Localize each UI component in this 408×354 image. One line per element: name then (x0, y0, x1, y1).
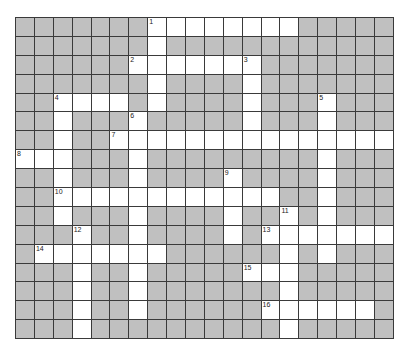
crossword-cell-open[interactable] (110, 94, 129, 113)
crossword-cell-open[interactable]: 3 (243, 56, 262, 75)
crossword-cell-open[interactable] (224, 131, 243, 150)
crossword-cell-open[interactable] (318, 188, 337, 207)
crossword-cell-open[interactable] (73, 264, 92, 283)
crossword-cell-open[interactable] (318, 226, 337, 245)
crossword-cell-open[interactable] (148, 94, 167, 113)
crossword-cell-open[interactable] (92, 94, 111, 113)
crossword-cell-open[interactable] (186, 131, 205, 150)
crossword-cell-open[interactable] (337, 131, 356, 150)
crossword-cell-open[interactable] (73, 245, 92, 264)
crossword-cell-open[interactable] (35, 150, 54, 169)
crossword-cell-open[interactable]: 13 (262, 226, 281, 245)
crossword-cell-open[interactable]: 9 (224, 169, 243, 188)
crossword-cell-open[interactable] (129, 282, 148, 301)
crossword-cell-open[interactable] (375, 226, 394, 245)
crossword-cell-open[interactable]: 8 (16, 150, 35, 169)
crossword-cell-open[interactable] (54, 169, 73, 188)
crossword-cell-open[interactable] (186, 56, 205, 75)
crossword-cell-open[interactable] (205, 188, 224, 207)
crossword-cell-open[interactable]: 5 (318, 94, 337, 113)
crossword-cell-open[interactable] (129, 188, 148, 207)
crossword-cell-open[interactable] (205, 18, 224, 37)
crossword-cell-open[interactable] (148, 131, 167, 150)
crossword-cell-open[interactable] (92, 245, 111, 264)
crossword-cell-open[interactable] (129, 207, 148, 226)
crossword-cell-open[interactable] (243, 18, 262, 37)
crossword-cell-open[interactable] (54, 150, 73, 169)
crossword-cell-open[interactable] (148, 245, 167, 264)
crossword-cell-open[interactable]: 15 (243, 264, 262, 283)
crossword-cell-open[interactable] (356, 226, 375, 245)
crossword-cell-open[interactable] (167, 18, 186, 37)
crossword-cell-open[interactable] (186, 188, 205, 207)
crossword-cell-open[interactable] (243, 112, 262, 131)
crossword-cell-open[interactable] (280, 282, 299, 301)
crossword-cell-open[interactable] (224, 226, 243, 245)
crossword-cell-open[interactable]: 2 (129, 56, 148, 75)
crossword-cell-open[interactable]: 1 (148, 18, 167, 37)
crossword-cell-open[interactable] (243, 188, 262, 207)
crossword-cell-open[interactable] (54, 112, 73, 131)
crossword-cell-open[interactable] (129, 264, 148, 283)
crossword-cell-open[interactable] (224, 56, 243, 75)
crossword-cell-open[interactable] (318, 245, 337, 264)
crossword-cell-open[interactable] (262, 264, 281, 283)
crossword-cell-open[interactable] (280, 18, 299, 37)
crossword-cell-open[interactable] (262, 18, 281, 37)
crossword-cell-open[interactable]: 7 (110, 131, 129, 150)
crossword-cell-open[interactable] (110, 188, 129, 207)
crossword-cell-open[interactable] (337, 226, 356, 245)
crossword-cell-open[interactable] (318, 150, 337, 169)
crossword-cell-open[interactable] (129, 169, 148, 188)
crossword-cell-open[interactable] (148, 56, 167, 75)
crossword-cell-open[interactable] (54, 245, 73, 264)
crossword-cell-open[interactable] (73, 282, 92, 301)
crossword-cell-open[interactable] (318, 131, 337, 150)
crossword-cell-open[interactable] (299, 131, 318, 150)
crossword-cell-open[interactable] (129, 226, 148, 245)
crossword-cell-open[interactable] (243, 75, 262, 94)
crossword-cell-open[interactable] (280, 301, 299, 320)
crossword-cell-open[interactable] (318, 301, 337, 320)
crossword-cell-open[interactable] (73, 94, 92, 113)
crossword-cell-open[interactable] (262, 188, 281, 207)
crossword-cell-open[interactable] (110, 245, 129, 264)
crossword-cell-open[interactable] (54, 131, 73, 150)
crossword-cell-open[interactable] (356, 131, 375, 150)
crossword-cell-open[interactable] (243, 131, 262, 150)
crossword-cell-open[interactable]: 11 (280, 207, 299, 226)
crossword-cell-open[interactable] (318, 169, 337, 188)
crossword-cell-open[interactable] (224, 207, 243, 226)
crossword-cell-open[interactable] (280, 264, 299, 283)
crossword-cell-open[interactable] (280, 226, 299, 245)
crossword-cell-open[interactable]: 14 (35, 245, 54, 264)
crossword-cell-open[interactable] (356, 301, 375, 320)
crossword-cell-open[interactable] (224, 18, 243, 37)
crossword-cell-open[interactable]: 16 (262, 301, 281, 320)
crossword-cell-open[interactable] (299, 301, 318, 320)
crossword-cell-open[interactable] (73, 301, 92, 320)
crossword-cell-open[interactable] (167, 188, 186, 207)
crossword-cell-open[interactable] (167, 56, 186, 75)
crossword-cell-open[interactable] (280, 131, 299, 150)
crossword-cell-open[interactable] (299, 226, 318, 245)
crossword-cell-open[interactable] (224, 188, 243, 207)
crossword-cell-open[interactable] (129, 301, 148, 320)
crossword-cell-open[interactable] (280, 245, 299, 264)
crossword-cell-open[interactable] (54, 207, 73, 226)
crossword-cell-open[interactable] (337, 301, 356, 320)
crossword-cell-open[interactable] (280, 320, 299, 339)
crossword-cell-open[interactable] (262, 131, 281, 150)
crossword-cell-open[interactable] (167, 131, 186, 150)
crossword-cell-open[interactable] (73, 320, 92, 339)
crossword-cell-open[interactable] (318, 207, 337, 226)
crossword-cell-open[interactable] (375, 131, 394, 150)
crossword-cell-open[interactable] (129, 245, 148, 264)
crossword-cell-open[interactable] (73, 188, 92, 207)
crossword-cell-open[interactable] (148, 188, 167, 207)
crossword-cell-open[interactable] (129, 131, 148, 150)
crossword-cell-open[interactable] (318, 112, 337, 131)
crossword-cell-open[interactable]: 10 (54, 188, 73, 207)
crossword-cell-open[interactable]: 6 (129, 112, 148, 131)
crossword-cell-open[interactable]: 4 (54, 94, 73, 113)
